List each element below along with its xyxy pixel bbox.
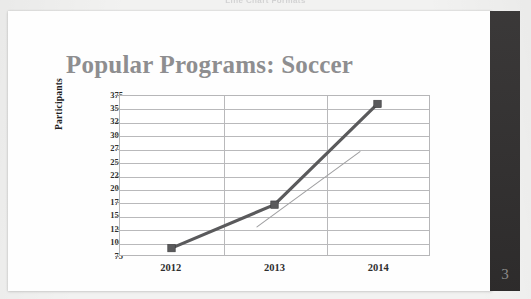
x-axis-tick-label: 2014	[348, 262, 408, 273]
data-point-marker	[168, 244, 175, 251]
presentation-slide: Popular Programs: Soccer Participants 37…	[8, 11, 492, 291]
series-line	[257, 152, 360, 227]
running-header-text: Line Chart Formats	[0, 0, 531, 5]
page-number: 3	[490, 266, 520, 283]
data-point-marker	[271, 201, 278, 208]
page-title: Popular Programs: Soccer	[66, 51, 353, 79]
scanned-page-background: Line Chart Formats Popular Programs: Soc…	[0, 0, 531, 299]
line-chart: Participants 375350325300275250225200175…	[58, 90, 438, 280]
x-axis-tick-label: 2012	[141, 262, 201, 273]
series-line	[171, 104, 377, 248]
x-axis-tick-label: 2013	[245, 262, 305, 273]
y-axis-tick-mark	[115, 256, 119, 257]
y-axis-title: Participants	[54, 78, 64, 130]
plot-area	[119, 95, 430, 256]
slide-accent-bar: 3	[490, 11, 520, 291]
series-layer	[120, 96, 429, 255]
data-point-marker	[374, 100, 381, 107]
